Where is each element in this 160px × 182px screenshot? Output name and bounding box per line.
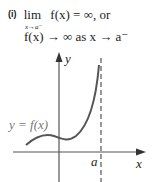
asymptote-a-label: a — [91, 154, 98, 170]
function-curve — [26, 65, 99, 145]
y-axis-arrow-icon — [56, 52, 63, 62]
curve-label: y = f(x) — [9, 117, 48, 133]
x-axis-label: x — [136, 156, 142, 172]
y-axis-label: y — [65, 51, 71, 67]
x-axis-arrow-icon — [136, 149, 146, 156]
graph — [0, 0, 160, 182]
